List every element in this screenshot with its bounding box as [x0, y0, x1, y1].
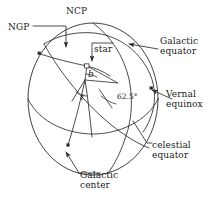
celestial-equator-front	[28, 99, 158, 134]
label-inclination-angle: 62.5°	[117, 93, 137, 101]
star-meridian-lower	[85, 80, 92, 137]
label-galactic-longitude-l: ℓ	[80, 93, 84, 102]
label-ncp: NCP	[66, 6, 87, 16]
label-celestial-equator: celestial equator	[152, 140, 191, 160]
arrow-galactic-equator	[129, 44, 158, 49]
galactic-center-point-marker	[66, 143, 69, 146]
ngp-point-marker	[38, 52, 41, 55]
vernal-equinox-point-marker	[150, 86, 153, 89]
star-point-marker	[85, 64, 89, 68]
label-galactic-equator: Galactic equator	[160, 36, 198, 56]
label-ngp: NGP	[8, 22, 29, 32]
label-galactic-center: Galactic center	[80, 170, 118, 190]
leader-ngp	[33, 26, 66, 33]
leader-celestial-equator	[133, 121, 152, 143]
label-vernal-equinox: Vernal equinox	[166, 89, 203, 109]
label-star: star	[94, 44, 112, 54]
label-galactic-latitude-b: b	[88, 70, 94, 79]
celestial-sphere-diagram: NCP NGP star Galactic equator Vernal equ…	[0, 0, 217, 198]
galactic-longitude-arc	[68, 80, 85, 145]
angle-leg-inclination	[99, 89, 112, 108]
